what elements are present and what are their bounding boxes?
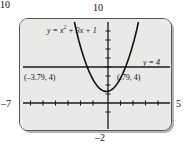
intersection-label-right: (.79, 4): [117, 74, 140, 82]
intersection-label-left: (–3.79, 4): [24, 74, 55, 82]
line-equation-label: y = 4: [143, 59, 160, 67]
equation-label: y = x2 + 3x + 1: [47, 27, 97, 35]
label-x-min: –7: [1, 99, 11, 109]
label-x-max: 5: [176, 99, 181, 109]
label-y-min: –2: [95, 133, 105, 143]
y-axis-max-label: 10: [0, 0, 10, 10]
equation-eq: =: [51, 26, 60, 35]
label-y-max: 10: [93, 3, 103, 13]
equation-rest: + 3x + 1: [66, 26, 96, 35]
figure-viewport: 10: [0, 0, 186, 150]
